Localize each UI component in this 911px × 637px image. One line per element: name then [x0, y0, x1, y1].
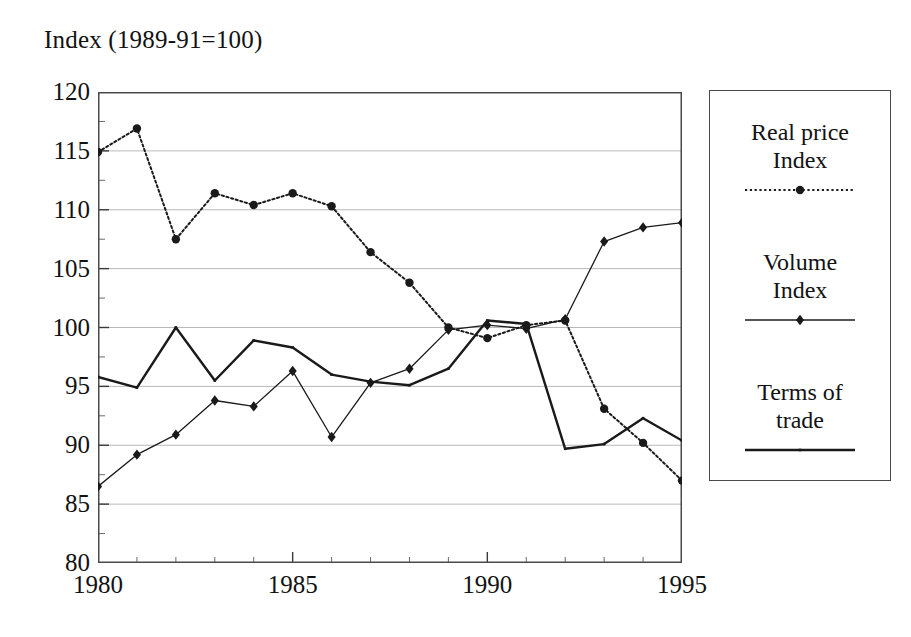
y-tick-label: 120 [32, 79, 90, 104]
data-point [288, 189, 296, 197]
series-line [98, 129, 682, 481]
legend-label-line1: Terms of [710, 379, 890, 407]
legend-swatch-dotted-circle-line [710, 182, 890, 198]
x-tick-label: 1990 [462, 572, 512, 597]
x-tick-label: 1980 [73, 572, 123, 597]
data-point [250, 201, 258, 209]
data-point [172, 429, 180, 439]
data-point [678, 218, 682, 228]
chart-figure: Index (1989-91=100) 80859095100105110115… [0, 0, 911, 637]
legend-marker [799, 448, 802, 451]
data-point [486, 319, 489, 322]
plot-area [98, 92, 682, 563]
data-point [175, 326, 178, 329]
legend-label-line1: Volume [710, 249, 890, 277]
legend-marker [796, 185, 804, 193]
series-line [98, 223, 682, 487]
legend-label-line2: trade [710, 407, 890, 435]
data-point [564, 447, 567, 450]
data-point [603, 443, 606, 446]
data-point [330, 373, 333, 376]
data-point [214, 379, 217, 382]
data-point [525, 323, 528, 326]
chart-legend: Real priceIndexVolumeIndexTerms oftrade [709, 90, 891, 481]
data-point [98, 376, 99, 379]
y-tick-label: 90 [32, 432, 90, 457]
data-point [639, 222, 647, 232]
data-point [600, 405, 608, 413]
data-point [211, 395, 219, 405]
data-point [136, 386, 139, 389]
y-tick-label: 115 [32, 138, 90, 163]
y-tick-label: 110 [32, 197, 90, 222]
data-point [600, 236, 608, 246]
legend-item-2[interactable]: VolumeIndex [710, 249, 890, 328]
legend-swatch-solid-line [710, 442, 890, 458]
y-tick-label: 100 [32, 315, 90, 340]
data-point [366, 248, 374, 256]
y-tick-label: 95 [32, 373, 90, 398]
data-point [250, 401, 258, 411]
data-point [405, 279, 413, 287]
y-tick-label: 105 [32, 256, 90, 281]
legend-label-line2: Index [710, 277, 890, 305]
series-2 [98, 218, 682, 492]
data-point [133, 449, 141, 459]
data-point [252, 339, 255, 342]
chart-title: Index (1989-91=100) [44, 26, 263, 54]
data-point [172, 235, 180, 243]
data-point [369, 380, 372, 383]
x-axis-tick-labels: 1980198519901995 [98, 572, 682, 612]
legend-label-line2: Index [710, 147, 890, 175]
data-point [133, 124, 141, 132]
gridlines [99, 151, 681, 504]
data-point [483, 334, 491, 342]
legend-label-line1: Real price [710, 119, 890, 147]
data-point [291, 346, 294, 349]
data-point [642, 417, 645, 420]
data-point [447, 367, 450, 370]
data-point [408, 384, 411, 387]
data-point [681, 439, 682, 442]
data-point [211, 189, 219, 197]
legend-marker [796, 314, 804, 324]
data-series-layer [98, 124, 682, 491]
x-tick-label: 1995 [657, 572, 707, 597]
data-point [639, 439, 647, 447]
x-tick-label: 1985 [268, 572, 318, 597]
chart-canvas [98, 92, 682, 563]
y-axis-tick-labels: 80859095100105110115120 [32, 92, 90, 563]
legend-swatch-thin-diamond-line [710, 312, 890, 328]
series-1 [98, 124, 682, 484]
legend-item-3[interactable]: Terms oftrade [710, 379, 890, 458]
data-point [327, 202, 335, 210]
legend-item-1[interactable]: Real priceIndex [710, 119, 890, 198]
y-tick-label: 85 [32, 491, 90, 516]
